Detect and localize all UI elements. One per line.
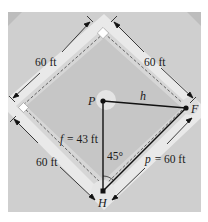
point-H	[101, 189, 106, 194]
label-angle-45: 45°	[107, 150, 124, 162]
label-h: h	[140, 89, 146, 103]
label-60ft-bottom-left: 60 ft	[36, 156, 58, 168]
label-p-60ft: p = 60 ft	[144, 153, 186, 166]
label-60ft-top-right: 60 ft	[144, 56, 166, 68]
label-60ft-top-left: 60 ft	[35, 56, 57, 68]
point-F	[183, 105, 188, 110]
baseball-diamond-diagram: 60 ft 60 ft 60 ft p = 60 ft f = 43 ft 45…	[0, 0, 208, 222]
label-F: F	[190, 102, 199, 116]
point-P	[100, 98, 105, 103]
label-P: P	[87, 94, 96, 108]
pitchers-mound	[96, 90, 116, 110]
label-H: H	[97, 196, 108, 210]
label-f-43ft: f = 43 ft	[60, 133, 99, 146]
